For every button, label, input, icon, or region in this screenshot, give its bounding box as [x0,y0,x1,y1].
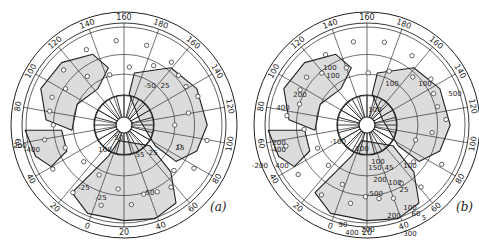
contour-label: 45 [385,164,394,172]
station-marker [285,114,289,118]
longitude-label: 80 [454,172,467,185]
station-marker [304,75,308,79]
station-marker [411,75,415,79]
station-marker [296,172,300,176]
contour-label: 90 [339,221,348,229]
longitude-label: 60 [429,201,443,214]
contour-label: 5 [422,214,426,222]
longitude-label: 20 [291,201,305,214]
contour-label: 200 [373,176,386,184]
contour-label: 400 [345,229,358,237]
contour-label: 400 [276,104,289,112]
station-marker [391,196,395,200]
station-marker [344,66,348,70]
station-marker [413,138,417,142]
longitude-label: 180 [395,17,412,31]
contour-label: 200 [293,91,306,99]
station-marker [340,182,344,186]
longitude-label: 160 [359,13,374,22]
contour-label: 200 [387,212,400,220]
station-marker [366,71,370,75]
map-group: 1601801601401201008060402002040608010012… [252,12,479,238]
longitude-label: 120 [289,34,306,51]
longitude-label: 160 [427,34,444,51]
contour-label: 200 [361,226,374,234]
longitude-label: 140 [321,17,338,31]
station-marker [430,130,434,134]
contour-label: 25 [400,186,409,194]
contour-label: 500 [448,90,461,98]
polar-map-b: 1601801601401201008060402002040608010012… [0,0,479,250]
station-marker [302,127,306,131]
contour-label: 60 [412,210,421,218]
contour-label: -100 [330,138,346,146]
station-marker [351,40,355,44]
station-marker [419,185,423,189]
longitude-label: 100 [266,62,281,80]
contour-label: 100 [403,162,416,170]
station-marker [387,69,391,73]
station-marker [435,105,439,109]
station-marker [297,102,301,106]
station-marker [326,163,330,167]
contour-label: 300 [403,230,416,238]
station-marker [444,117,448,121]
polar-map-b-svg: 1601801601401201008060402002040608010012… [0,0,479,250]
north-pole [359,117,375,133]
station-marker [348,201,352,205]
contour-label: 100 [355,145,368,153]
station-marker [382,40,386,44]
contour-label: 100 [418,80,431,88]
longitude-label: 40 [267,172,280,185]
longitude-label: 80 [256,101,267,113]
station-marker [440,162,444,166]
station-marker [315,146,319,150]
station-marker [431,92,435,96]
contour-label: 100 [323,64,336,72]
longitude-label: 60 [256,138,267,150]
contour-label: 100 [368,106,381,114]
contour-label: -400 [270,146,286,154]
contour-label: 100 [326,72,339,80]
longitude-label: 120 [467,98,479,115]
station-marker [319,193,323,197]
station-marker [410,54,414,58]
station-marker [323,52,327,56]
longitude-label: 0 [326,221,334,231]
panel-label-b: (b) [456,200,473,214]
contour-label: 400 [275,162,288,170]
contour-label: 100 [385,80,398,88]
contour-label: 150 [368,164,381,172]
contour-label: -200 [252,162,268,170]
longitude-label: 140 [452,62,467,80]
contour-label: -500 [367,190,383,198]
